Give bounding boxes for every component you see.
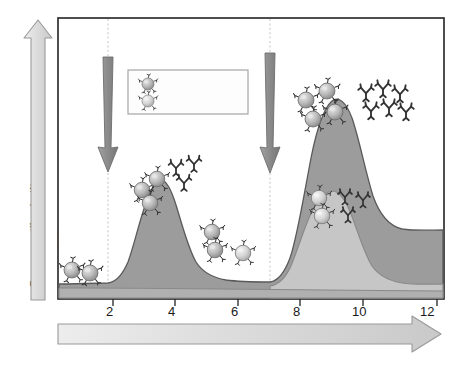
y-axis-arrow	[24, 20, 52, 300]
legend-box	[128, 70, 248, 114]
figure-container: Serum antibody titer Weeks 2 4 6 8 10 12…	[0, 0, 449, 369]
x-axis-ticks	[113, 299, 437, 306]
antibody-response-chart	[0, 0, 449, 369]
x-axis-arrow	[58, 316, 441, 352]
